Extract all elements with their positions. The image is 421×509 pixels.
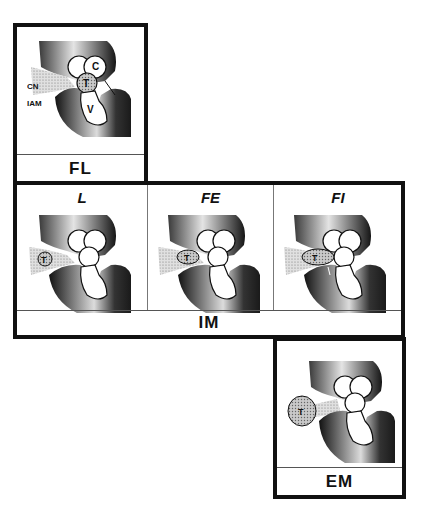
- ear-anatomy-illustration: T: [282, 213, 392, 313]
- label-iam: IAM: [27, 99, 42, 108]
- subpanel-fi: FI T: [274, 185, 402, 315]
- ear-anatomy-illustration: T: [156, 213, 266, 313]
- label-cn: CN: [27, 82, 39, 91]
- label-t: T: [298, 407, 304, 417]
- ear-anatomy-illustration: T: [285, 359, 397, 464]
- ear-anatomy-illustration: T: [27, 213, 137, 313]
- ear-anatomy-illustration: C T V CN IAM: [27, 37, 137, 137]
- label-c: C: [92, 61, 99, 72]
- label-t: T: [312, 253, 318, 263]
- caption-fl: FL: [17, 154, 144, 182]
- label-t: T: [83, 78, 89, 89]
- subpanel-l: L T: [17, 185, 147, 315]
- panel-fl: C T V CN IAM FL: [13, 23, 148, 186]
- panel-em: T EM: [273, 337, 406, 499]
- caption-em: EM: [277, 467, 402, 495]
- caption-im: IM: [17, 310, 401, 335]
- label-v: V: [87, 104, 94, 115]
- panel-im: L T FE T FI: [13, 181, 405, 339]
- label-t: T: [184, 253, 190, 263]
- subpanel-title-l: L: [17, 189, 147, 206]
- subpanel-fe: FE T: [148, 185, 273, 315]
- subpanel-title-fe: FE: [148, 189, 273, 206]
- subpanel-title-fi: FI: [274, 189, 402, 206]
- label-t: T: [41, 255, 47, 265]
